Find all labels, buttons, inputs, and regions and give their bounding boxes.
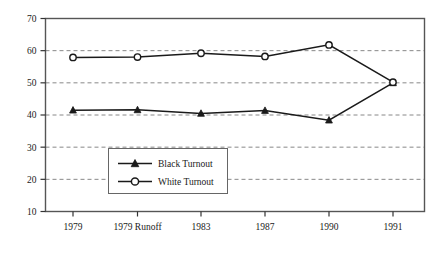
turnout-line-chart: 10203040506070 19791979 Runoff1983198719… (0, 0, 444, 258)
data-point-open-circle (70, 54, 76, 60)
legend-label: White Turnout (158, 177, 214, 187)
x-tick-label: 1979 (64, 222, 83, 232)
chart-container: 10203040506070 19791979 Runoff1983198719… (0, 0, 444, 258)
data-point-open-circle (198, 50, 204, 56)
x-tick-label: 1990 (320, 222, 339, 232)
data-point-open-circle (262, 53, 268, 59)
data-point-open-circle (326, 42, 332, 48)
y-tick-label: 10 (27, 207, 37, 217)
x-tick-label: 1983 (192, 222, 211, 232)
data-point-open-circle (134, 54, 140, 60)
legend-marker-open-circle (131, 178, 138, 185)
y-tick-label: 50 (27, 78, 37, 88)
y-tick-label: 20 (27, 175, 37, 185)
chart-background (0, 0, 444, 258)
data-point-open-circle (390, 79, 396, 85)
x-tick-label: 1991 (384, 222, 403, 232)
y-tick-label: 40 (27, 110, 37, 120)
legend-label: Black Turnout (158, 159, 213, 169)
y-tick-label: 70 (27, 14, 37, 24)
y-tick-label: 60 (27, 46, 37, 56)
x-tick-label: 1979 Runoff (113, 222, 162, 232)
legend: Black TurnoutWhite Turnout (109, 149, 228, 194)
y-tick-label: 30 (27, 143, 37, 153)
x-tick-label: 1987 (256, 222, 275, 232)
